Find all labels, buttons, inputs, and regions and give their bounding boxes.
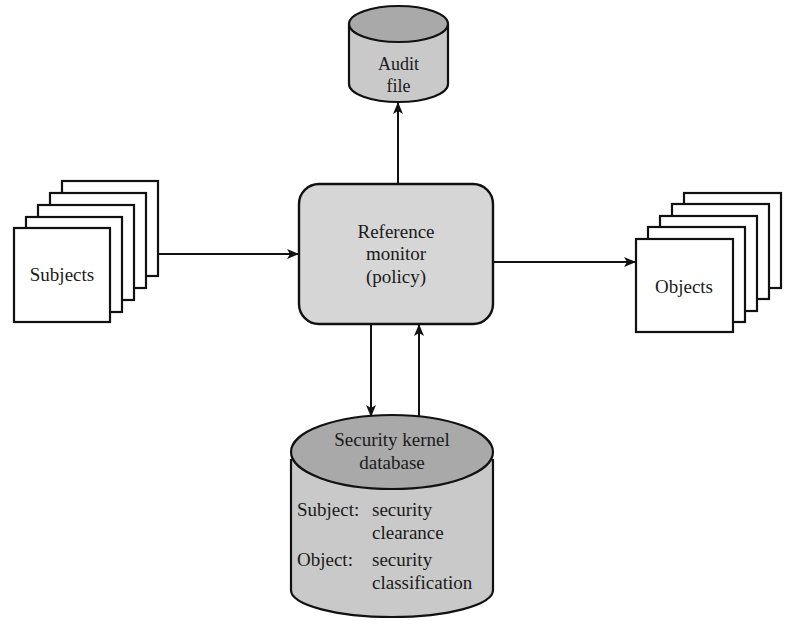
reference-monitor-diagram: Subjects Objects Audit file Reference mo… — [0, 0, 794, 633]
kernel-db-object-key: Object: — [297, 549, 353, 570]
reference-monitor-box: Reference monitor (policy) — [299, 184, 493, 324]
kernel-db-subject-value-line2: clearance — [372, 522, 444, 543]
kernel-db-title-line2: database — [359, 452, 424, 473]
security-kernel-database-cylinder: Security kernel database Subject: securi… — [291, 415, 493, 617]
subjects-stack: Subjects — [14, 181, 158, 322]
reference-monitor-line1: Reference — [358, 221, 435, 242]
kernel-db-subject-value-line1: security — [372, 499, 433, 520]
objects-stack: Objects — [636, 193, 781, 332]
audit-file-cylinder: Audit file — [349, 6, 448, 102]
audit-file-label-line1: Audit — [378, 54, 419, 74]
kernel-db-object-value-line1: security — [372, 549, 433, 570]
kernel-db-subject-key: Subject: — [297, 499, 359, 520]
audit-file-label-line2: file — [387, 76, 411, 96]
reference-monitor-line2: monitor — [366, 243, 427, 264]
subjects-label: Subjects — [30, 264, 94, 285]
reference-monitor-line3: (policy) — [366, 266, 426, 288]
objects-label: Objects — [655, 276, 713, 297]
audit-file-top — [349, 6, 448, 42]
kernel-db-title-line1: Security kernel — [334, 429, 450, 450]
kernel-db-object-value-line2: classification — [372, 572, 473, 593]
